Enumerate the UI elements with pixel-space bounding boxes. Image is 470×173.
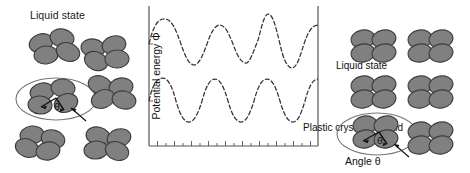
molecule-cluster	[345, 72, 403, 110]
molecule-cluster	[402, 26, 460, 64]
y-axis-title: Potential energy Φ	[150, 16, 162, 136]
potential-energy-plot: Liquid state Plastic crystalline solid A…	[140, 0, 325, 173]
theta-label: θ	[54, 101, 60, 112]
liquid-state-panel: Liquid state	[0, 0, 138, 173]
plastic-crystalline-solid-panel: Plastic crystalline solid	[330, 0, 470, 173]
molecule-cluster	[12, 122, 72, 162]
x-axis-ticks	[158, 141, 311, 146]
molecule-cluster	[79, 124, 137, 162]
liquid-state-curve	[149, 14, 318, 68]
plot-svg	[140, 0, 325, 173]
molecule-cluster	[345, 26, 403, 64]
plot-axes	[149, 6, 318, 146]
molecule-cluster	[83, 72, 141, 110]
figure-root: Liquid state	[0, 0, 470, 173]
molecule-cluster	[77, 34, 135, 72]
plastic-solid-curve	[149, 78, 318, 122]
liquid-state-title: Liquid state	[30, 9, 85, 21]
theta-label: θ	[377, 135, 383, 146]
molecule-cluster	[402, 118, 460, 156]
molecule-cluster	[402, 72, 460, 110]
